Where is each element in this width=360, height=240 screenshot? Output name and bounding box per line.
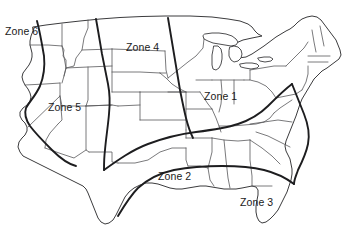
zone-label-zone-4: Zone 4 — [126, 42, 159, 53]
lake-ontario — [258, 57, 273, 62]
zone-label-zone-5: Zone 5 — [48, 102, 81, 113]
map-graphic — [0, 0, 360, 240]
us-zone-map: Zone 6 Zone 4 Zone 5 Zone 1 Zone 2 Zone … — [0, 0, 360, 240]
zone-label-zone-3: Zone 3 — [240, 197, 273, 208]
zone-label-zone-1: Zone 1 — [204, 91, 237, 102]
zone-label-zone-2: Zone 2 — [158, 171, 191, 182]
zone-label-zone-6: Zone 6 — [5, 26, 38, 37]
